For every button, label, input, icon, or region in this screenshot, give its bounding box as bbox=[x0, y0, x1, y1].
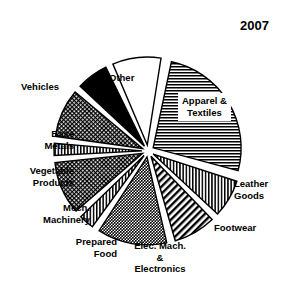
slice-label-mech-line1: Mech. bbox=[18, 202, 90, 214]
slice-label-vegetable-line1: Vegetable bbox=[2, 165, 74, 177]
slice-label-leather-goods: Leather Goods bbox=[234, 178, 268, 201]
slice-label-mech-machinery: Mech. Machinery bbox=[18, 202, 90, 225]
slice-label-leather-line1: Leather bbox=[234, 178, 268, 190]
slice-label-prepared-food: Prepared Food bbox=[55, 236, 117, 259]
slice-label-base-line2: Metals bbox=[12, 140, 74, 152]
slice-label-elec-line2: & bbox=[118, 252, 202, 264]
slice-label-vehicles-text: Vehicles bbox=[21, 81, 59, 93]
slice-label-footwear-text: Footwear bbox=[214, 222, 256, 234]
slice-label-vegetable-products: Vegetable Products bbox=[2, 165, 74, 188]
slice-label-vehicles: Vehicles bbox=[21, 81, 59, 93]
slice-label-apparel-textiles: Apparel & Textiles bbox=[178, 93, 231, 121]
slice-label-other: Other bbox=[109, 72, 134, 84]
slice-label-base-metals: Base Metals bbox=[12, 128, 74, 151]
slice-label-vegetable-line2: Products bbox=[2, 177, 74, 189]
slice-label-apparel-line1: Apparel & bbox=[182, 95, 227, 107]
slice-label-mech-line2: Machinery bbox=[18, 214, 90, 226]
slice-label-elec-mach-electronics: Elec. Mach. & Electronics bbox=[118, 240, 202, 275]
slice-label-elec-line1: Elec. Mach. bbox=[118, 240, 202, 252]
slice-label-base-line1: Base bbox=[12, 128, 74, 140]
pie-chart-figure: Apparel & Textiles: 26%Leather Goods: 7%… bbox=[0, 0, 283, 283]
slice-label-prepared-line1: Prepared bbox=[55, 236, 117, 248]
slice-label-apparel-line2: Textiles bbox=[182, 107, 227, 119]
slice-label-prepared-line2: Food bbox=[55, 248, 117, 260]
slice-label-footwear: Footwear bbox=[214, 222, 256, 234]
slice-label-elec-line3: Electronics bbox=[118, 263, 202, 275]
chart-title: 2007 bbox=[240, 18, 269, 33]
slice-label-other-text: Other bbox=[109, 72, 134, 84]
slice-label-leather-line2: Goods bbox=[234, 190, 268, 202]
